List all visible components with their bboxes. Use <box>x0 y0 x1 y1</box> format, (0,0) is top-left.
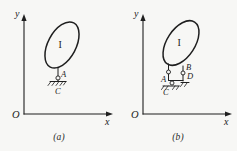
body-label-a: I <box>59 39 62 50</box>
figure-two-panel-rigid-body-supports: y x O I A <box>0 0 237 151</box>
origin-label-b: O <box>131 109 139 120</box>
panel-a: y x O I A <box>0 0 118 151</box>
x-axis-a <box>24 111 113 116</box>
caption-a: (a) <box>0 132 118 142</box>
panel-b-drawing: y x O I A B <box>119 0 237 151</box>
panel-b: y x O I A B <box>119 0 237 151</box>
pin-joint-a-A <box>56 76 60 80</box>
x-axis-label-a: x <box>104 116 110 127</box>
x-axis-b <box>143 111 232 116</box>
rigid-body-a: I <box>38 16 86 73</box>
rigid-body-b: I <box>156 14 207 71</box>
joint-label-A-b: A <box>160 74 167 84</box>
y-axis-a <box>21 14 26 114</box>
joint-label-A-a: A <box>60 69 67 79</box>
support-assembly-b: A B C <box>160 62 194 97</box>
x-axis-label-b: x <box>223 116 229 127</box>
pin-joint-b-B <box>181 71 185 75</box>
y-axis-arrowhead-a <box>21 14 26 21</box>
pin-joint-b-C <box>170 81 174 85</box>
joint-label-C-b: C <box>163 87 169 97</box>
origin-label-a: O <box>12 109 20 120</box>
pin-joint-b-A <box>167 70 171 74</box>
y-axis-label-b: y <box>133 8 139 19</box>
panel-a-drawing: y x O I A <box>0 0 118 151</box>
caption-b: (b) <box>119 132 237 142</box>
y-axis-b <box>140 14 145 114</box>
joint-label-C-a: C <box>55 86 61 96</box>
y-axis-arrowhead-b <box>140 14 145 21</box>
joint-label-D-b: D <box>186 71 194 81</box>
support-assembly-a: A C <box>48 67 67 96</box>
body-label-b: I <box>178 37 181 48</box>
y-axis-label-a: y <box>14 8 20 19</box>
